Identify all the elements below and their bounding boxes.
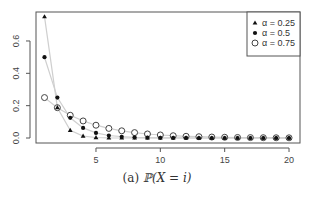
data-point-filled-circle — [81, 126, 85, 130]
legend-marker-filled-circle — [253, 31, 257, 35]
data-point-open-circle — [106, 125, 112, 131]
y-tick-label: 0.4 — [11, 67, 21, 80]
caption-math: ℙ(X = i) — [143, 171, 191, 185]
y-tick-label: 0.2 — [11, 99, 21, 112]
data-point-open-circle — [132, 130, 138, 136]
x-tick-label: 20 — [284, 155, 294, 165]
y-axis: 0.00.20.40.6 — [11, 35, 30, 145]
figure-caption: (a) ℙ(X = i) — [0, 171, 314, 185]
data-point-open-circle — [80, 118, 86, 124]
x-axis: 5101520 — [93, 148, 294, 165]
series-line — [45, 98, 290, 138]
data-point-filled-circle — [68, 116, 72, 120]
series-line — [45, 57, 290, 138]
caption-label: (a) — [123, 171, 140, 185]
y-tick-label: 0.0 — [11, 132, 21, 145]
data-point-filled-circle — [94, 131, 98, 135]
x-tick-label: 5 — [93, 155, 98, 165]
y-tick-label: 0.6 — [11, 35, 21, 48]
legend: α = 0.25α = 0.5α = 0.75 — [247, 12, 300, 56]
data-point-triangle — [42, 14, 47, 18]
legend-marker-open-circle — [252, 40, 258, 46]
legend-label: α = 0.75 — [262, 38, 295, 48]
legend-label: α = 0.25 — [262, 18, 295, 28]
data-point-open-circle — [119, 128, 125, 134]
data-point-open-circle — [93, 122, 99, 128]
probability-chart: 0.00.20.40.6 5101520 α = 0.25α = 0.5α = … — [0, 0, 314, 170]
data-point-filled-circle — [42, 55, 46, 59]
legend-label: α = 0.5 — [262, 28, 290, 38]
x-tick-label: 15 — [220, 155, 230, 165]
data-point-open-circle — [42, 95, 48, 101]
x-tick-label: 10 — [155, 155, 165, 165]
data-point-filled-circle — [55, 95, 59, 99]
